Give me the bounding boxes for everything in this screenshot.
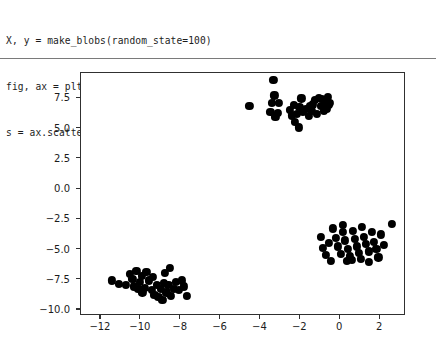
data-point	[374, 253, 382, 261]
y-axis-tick-label: −10.0	[26, 303, 70, 314]
x-axis-tick-label: −2	[292, 321, 307, 332]
y-axis-tick-mark	[76, 218, 80, 219]
y-axis-tick-mark	[76, 308, 80, 309]
x-axis-tick-mark	[179, 315, 180, 319]
data-point	[339, 228, 347, 236]
data-point	[327, 257, 335, 265]
y-axis-tick-label: 2.5	[26, 152, 70, 163]
data-point	[149, 273, 157, 281]
scatter-plot-figure: 7.55.02.50.0−2.5−5.0−7.5−10.0−12−10−8−6−…	[0, 62, 436, 344]
data-point	[358, 223, 366, 231]
x-axis-tick-label: −10	[129, 321, 150, 332]
data-point	[122, 281, 130, 289]
data-point	[245, 102, 253, 110]
data-point	[180, 282, 188, 290]
data-point	[275, 99, 283, 107]
data-point	[368, 228, 376, 236]
data-point	[342, 257, 350, 265]
x-axis-tick-label: −4	[252, 321, 267, 332]
y-axis-tick-label: −5.0	[26, 243, 70, 254]
y-axis-tick-label: −2.5	[26, 213, 70, 224]
data-point	[166, 264, 174, 272]
y-axis-tick-label: 5.0	[26, 122, 70, 133]
data-point	[364, 247, 372, 255]
x-axis-tick-mark	[299, 315, 300, 319]
data-point	[329, 224, 337, 232]
data-point	[332, 234, 340, 242]
x-axis-tick-label: −12	[89, 321, 110, 332]
data-point	[377, 230, 385, 238]
cell-separator	[0, 58, 436, 59]
y-axis-tick-mark	[76, 127, 80, 128]
data-point	[271, 113, 279, 121]
data-point	[365, 258, 373, 266]
y-axis-tick-mark	[76, 278, 80, 279]
x-axis-tick-label: −8	[172, 321, 187, 332]
y-axis-tick-label: 7.5	[26, 92, 70, 103]
y-axis-tick-mark	[76, 97, 80, 98]
data-point	[269, 76, 277, 84]
x-axis-tick-label: −6	[212, 321, 227, 332]
data-point	[183, 292, 191, 300]
data-point	[295, 123, 303, 131]
y-axis-tick-mark	[76, 188, 80, 189]
x-axis-tick-mark	[259, 315, 260, 319]
x-axis-tick-mark	[219, 315, 220, 319]
data-point	[313, 110, 321, 118]
data-point	[325, 101, 333, 109]
data-point	[388, 219, 396, 227]
data-point	[348, 227, 356, 235]
data-point	[380, 241, 388, 249]
data-point	[357, 254, 365, 262]
y-axis-tick-mark	[76, 157, 80, 158]
data-point	[297, 94, 305, 102]
plot-axes-frame	[80, 72, 405, 315]
x-axis-tick-mark	[339, 315, 340, 319]
y-axis-tick-label: 0.0	[26, 183, 70, 194]
code-line: X, y = make_blobs(random_state=100)	[6, 33, 430, 48]
x-axis-tick-mark	[379, 315, 380, 319]
y-axis-tick-mark	[76, 248, 80, 249]
x-axis-tick-label: 0	[336, 321, 342, 332]
data-point	[317, 233, 325, 241]
data-point	[158, 296, 166, 304]
data-point	[339, 221, 347, 229]
x-axis-tick-mark	[139, 315, 140, 319]
y-axis-tick-label: −7.5	[26, 273, 70, 284]
x-axis-tick-label: 2	[376, 321, 382, 332]
data-point	[167, 292, 175, 300]
x-axis-tick-mark	[99, 315, 100, 319]
data-point	[341, 236, 349, 244]
